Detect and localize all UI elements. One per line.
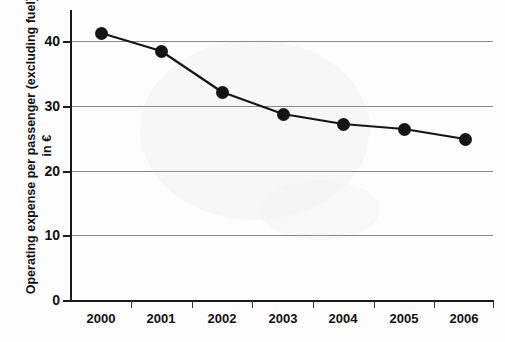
data-point-2006: [459, 133, 472, 146]
y-axis-line: [70, 10, 72, 302]
x-tick-label-2000: 2000: [71, 312, 131, 325]
x-tick-mark-0: [131, 301, 132, 308]
y-tick-label-0: 0: [0, 293, 60, 307]
data-point-2004: [337, 118, 350, 131]
y-tick-label-20: 20: [0, 164, 60, 178]
x-tick-label-2004: 2004: [313, 312, 373, 325]
x-axis-line: [70, 300, 494, 302]
data-point-2000: [95, 27, 108, 40]
x-tick-mark-5: [434, 301, 435, 308]
plot-area: [70, 10, 493, 300]
x-tick-mark-4: [374, 301, 375, 308]
x-tick-mark-6: [493, 301, 494, 308]
y-axis-tick-labels: 40 30 20 10 0: [0, 0, 60, 342]
x-tick-mark-2: [252, 301, 253, 308]
gridline-40: [70, 41, 493, 42]
x-tick-label-2006: 2006: [434, 312, 494, 325]
x-tick-label-2001: 2001: [131, 312, 191, 325]
data-point-2001: [155, 45, 168, 58]
x-tick-mark-1: [192, 301, 193, 308]
y-tick-label-30: 30: [0, 99, 60, 113]
x-tick-label-2005: 2005: [374, 312, 434, 325]
data-point-2003: [277, 108, 290, 121]
y-tick-label-40: 40: [0, 34, 60, 48]
y-tick-label-10: 10: [0, 228, 60, 242]
gridline-30: [70, 106, 493, 107]
gridline-10: [70, 235, 493, 236]
x-tick-label-2002: 2002: [192, 312, 252, 325]
gridline-20: [70, 171, 493, 172]
x-tick-label-2003: 2003: [253, 312, 313, 325]
data-point-2002: [216, 86, 229, 99]
data-point-2005: [398, 123, 411, 136]
x-tick-mark-3: [313, 301, 314, 308]
line-chart: Operating expense per passenger (excludi…: [0, 0, 505, 342]
